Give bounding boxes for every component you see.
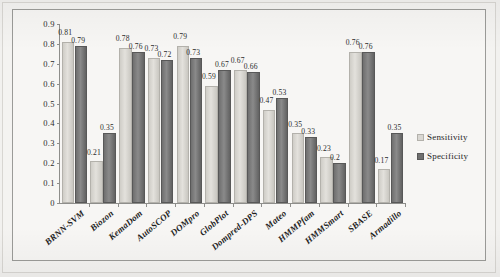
y-axis-tick-label: 0.4	[43, 118, 55, 128]
x-axis-tick	[89, 203, 90, 207]
x-axis-tick	[233, 203, 234, 207]
bar-sensitivity	[292, 133, 305, 203]
x-axis-tick	[146, 203, 147, 207]
bar-value-label: 0.67	[231, 56, 245, 65]
bar-group: 0.210.35	[90, 24, 116, 203]
bar-value-label: 0.47	[259, 96, 273, 105]
bar-specificity	[305, 137, 318, 203]
x-axis-tick	[118, 203, 119, 207]
bar-specificity	[247, 72, 260, 203]
y-axis-tick	[57, 24, 60, 25]
bar-specificity	[190, 58, 203, 203]
bar-specificity	[362, 52, 375, 203]
y-axis-tick	[57, 163, 60, 164]
bar-group: 0.170.35	[378, 24, 404, 203]
y-axis-tick-label: 0.5	[43, 99, 55, 109]
y-axis-tick-label: 0.1	[43, 178, 55, 188]
legend-item-label: Specificity	[427, 151, 468, 161]
bar-value-label: 0.73	[144, 44, 158, 53]
y-axis-tick	[57, 84, 60, 85]
bar-value-label: 0.35	[100, 123, 114, 132]
bar-sensitivity	[119, 48, 132, 203]
bar-specificity	[276, 98, 289, 203]
bar-sensitivity	[234, 70, 247, 203]
bar-value-label: 0.66	[244, 62, 258, 71]
bar-group: 0.470.53	[263, 24, 289, 203]
y-axis-tick	[57, 64, 60, 65]
bar-value-label: 0.59	[202, 72, 216, 81]
bar-sensitivity	[62, 42, 75, 203]
bar-value-label: 0.76	[129, 42, 143, 51]
bar-value-label: 0.2	[330, 153, 340, 162]
x-axis-category-label: DOMpro	[169, 208, 202, 238]
bar-value-label: 0.67	[215, 60, 229, 69]
bar-group: 0.730.72	[148, 24, 174, 203]
bar-group: 0.780.76	[119, 24, 145, 203]
chart-plot-frame: 00.10.20.30.40.50.60.70.80.90.810.79BRNN…	[12, 9, 486, 261]
bar-specificity	[75, 46, 88, 203]
x-axis-tick	[175, 203, 176, 207]
y-axis-tick-label: 0.7	[43, 59, 55, 69]
bar-specificity	[132, 52, 145, 203]
bar-sensitivity	[205, 86, 218, 203]
bar-value-label: 0.81	[58, 28, 72, 37]
y-axis-tick-label: 0.8	[43, 39, 55, 49]
x-axis-tick	[319, 203, 320, 207]
bar-value-label: 0.76	[359, 42, 373, 51]
x-axis-tick	[348, 203, 349, 207]
bar-group: 0.760.76	[349, 24, 375, 203]
bar-specificity	[333, 163, 346, 203]
chart-legend: SensitivitySpecificity	[417, 132, 468, 170]
bar-sensitivity	[148, 58, 161, 203]
x-axis-category-label: BRNN-SVM	[43, 208, 87, 247]
bar-sensitivity	[378, 169, 391, 203]
y-axis-tick-label: 0.6	[43, 79, 55, 89]
x-axis-tick	[405, 203, 406, 207]
bar-value-label: 0.79	[173, 32, 187, 41]
y-axis-tick-label: 0.2	[43, 158, 55, 168]
legend-swatch-icon	[417, 134, 424, 141]
bar-sensitivity	[320, 157, 333, 203]
bar-specificity	[391, 133, 404, 203]
bar-value-label: 0.79	[71, 36, 85, 45]
x-axis-tick	[204, 203, 205, 207]
y-axis-tick	[57, 44, 60, 45]
bar-sensitivity	[177, 46, 190, 203]
y-axis-tick-label: 0	[50, 198, 55, 208]
bar-value-label: 0.33	[301, 127, 315, 136]
y-axis-tick	[57, 183, 60, 184]
x-axis-tick	[290, 203, 291, 207]
bar-group: 0.230.2	[320, 24, 346, 203]
legend-item-specificity[interactable]: Specificity	[417, 151, 468, 161]
bar-value-label: 0.21	[87, 148, 101, 157]
bar-value-label: 0.73	[186, 48, 200, 57]
legend-item-label: Sensitivity	[427, 132, 468, 142]
bar-value-label: 0.23	[317, 144, 331, 153]
bar-value-label: 0.17	[374, 156, 388, 165]
y-axis-tick	[57, 203, 60, 204]
x-axis-tick	[261, 203, 262, 207]
bar-specificity	[103, 133, 116, 203]
y-axis-tick	[57, 143, 60, 144]
bar-specificity	[161, 60, 174, 203]
bar-value-label: 0.76	[346, 38, 360, 47]
bar-value-label: 0.78	[116, 34, 130, 43]
bar-group: 0.350.33	[292, 24, 318, 203]
plot-area: 00.10.20.30.40.50.60.70.80.90.810.79BRNN…	[59, 24, 405, 204]
bar-sensitivity	[263, 110, 276, 203]
bar-group: 0.670.66	[234, 24, 260, 203]
bar-group: 0.590.67	[205, 24, 231, 203]
bar-sensitivity	[349, 52, 362, 203]
bar-group: 0.810.79	[62, 24, 88, 203]
bar-group: 0.790.73	[177, 24, 203, 203]
bar-value-label: 0.53	[272, 88, 286, 97]
y-axis-tick-label: 0.3	[43, 138, 55, 148]
y-axis-tick-label: 0.9	[43, 19, 55, 29]
y-axis-tick	[57, 123, 60, 124]
legend-swatch-icon	[417, 153, 424, 160]
legend-item-sensitivity[interactable]: Sensitivity	[417, 132, 468, 142]
chart-container: 00.10.20.30.40.50.60.70.80.90.810.79BRNN…	[0, 0, 500, 277]
bar-specificity	[218, 70, 231, 203]
bar-sensitivity	[90, 161, 103, 203]
bar-value-label: 0.35	[387, 123, 401, 132]
